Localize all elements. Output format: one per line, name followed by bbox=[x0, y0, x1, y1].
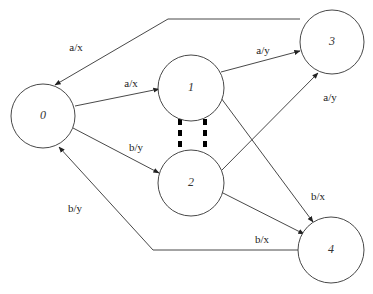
state-node-1: 1 bbox=[158, 55, 224, 121]
state-label: 2 bbox=[188, 175, 194, 189]
edge-0-to-2 bbox=[73, 128, 159, 173]
state-label: 4 bbox=[328, 242, 334, 256]
edge-label-3-to-0: a/x bbox=[69, 41, 83, 53]
state-node-4: 4 bbox=[298, 217, 364, 283]
edge-label-4-to-0: b/y bbox=[68, 202, 83, 214]
edge-label-0-to-1: a/x bbox=[124, 77, 138, 89]
edge-0-to-1 bbox=[75, 89, 159, 106]
state-diagram: 01234 a/xb/ya/ya/yb/xb/xa/xb/y bbox=[0, 0, 373, 294]
edge-label-2-to-4: b/x bbox=[255, 233, 270, 245]
state-node-3: 3 bbox=[300, 10, 364, 74]
state-label: 3 bbox=[328, 34, 335, 48]
edge-2-to-3 bbox=[221, 73, 318, 171]
edge-1-to-4 bbox=[221, 98, 313, 222]
edge-label-1-to-3: a/y bbox=[256, 44, 270, 56]
state-node-0: 0 bbox=[11, 84, 75, 148]
edge-label-0-to-2: b/y bbox=[129, 141, 144, 153]
state-label: 0 bbox=[40, 108, 46, 122]
dashed-link-1-2 bbox=[180, 119, 205, 150]
edge-label-1-to-4: b/x bbox=[311, 190, 326, 202]
edge-2-to-4 bbox=[221, 192, 304, 234]
state-label: 1 bbox=[188, 80, 194, 94]
edge-label-2-to-3: a/y bbox=[323, 91, 337, 103]
nodes: 01234 bbox=[11, 10, 364, 283]
state-node-2: 2 bbox=[158, 150, 224, 216]
